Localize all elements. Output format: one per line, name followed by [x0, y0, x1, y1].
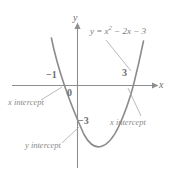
- equation-label: y = x2 − 2x − 3: [90, 27, 146, 36]
- x-tick-label-three: 3: [122, 68, 127, 78]
- origin-label: 0: [67, 88, 72, 98]
- x-axis-arrowhead: [152, 82, 159, 88]
- x-axis: [12, 82, 159, 88]
- callout-x-intercept-right: x intercept: [110, 118, 146, 127]
- y-axis-arrowhead: [74, 23, 80, 30]
- y-axis-label: y: [73, 13, 77, 23]
- equation-rest: − 2x − 3: [114, 26, 146, 36]
- leader-line-y-intercept: [62, 127, 79, 143]
- callout-x-intercept-left: x intercept: [8, 98, 44, 107]
- equation-lhs: y: [90, 26, 94, 36]
- x-axis-label: x: [159, 80, 163, 90]
- leader-line-x-intercept-right: [128, 88, 141, 116]
- parabola-figure: y x −1 0 3 −3 y = x2 − 2x − 3 x intercep…: [0, 0, 171, 172]
- y-axis: [74, 23, 80, 169]
- equation-equals: =: [96, 26, 102, 36]
- y-tick-label-negative-three: −3: [78, 116, 89, 126]
- callout-y-intercept: y intercept: [25, 141, 61, 150]
- leader-line-equation: [106, 40, 131, 71]
- leader-line-x-intercept-left: [41, 87, 62, 100]
- equation-exponent: 2: [109, 24, 112, 31]
- x-tick-label-negative-one: −1: [46, 70, 57, 80]
